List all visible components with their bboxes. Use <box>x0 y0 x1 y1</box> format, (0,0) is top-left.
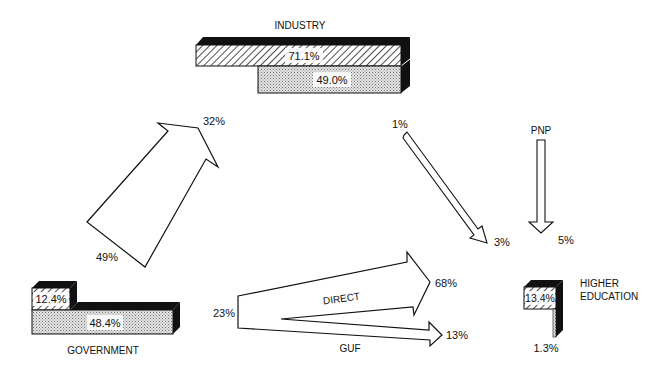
industry-bar-top-face <box>196 37 410 45</box>
industry-label: INDUSTRY <box>275 20 326 31</box>
industry-to-higher-ed-flow: 1% 3% <box>392 118 510 248</box>
industry-to-higher-ed-to-pct: 3% <box>494 236 510 248</box>
pnp-to-pct: 5% <box>558 234 574 246</box>
guf-pct: 13% <box>446 329 468 341</box>
government-label: GOVERNMENT <box>67 345 139 356</box>
gov-to-industry-from-pct: 49% <box>96 251 118 263</box>
gov-to-higher-ed-from-pct: 23% <box>213 307 235 319</box>
government-node: 12.4% 48.4% GOVERNMENT <box>32 281 180 356</box>
higher-education-node: 13.4% 1.3% HIGHER EDUCATION <box>524 278 638 354</box>
government-dotted-value: 48.4% <box>89 317 120 329</box>
higher-ed-label-line2: EDUCATION <box>580 291 638 302</box>
gov-to-industry-to-pct: 32% <box>203 115 225 127</box>
industry-dotted-value: 49.0% <box>316 74 347 86</box>
industry-hatched-value: 71.1% <box>288 50 319 62</box>
higher-ed-dotted-value: 1.3% <box>533 342 558 354</box>
funding-flow-diagram: INDUSTRY 71.1% 49.0% 12.4% 48.4% GOVERNM… <box>0 0 670 372</box>
guf-label: GUF <box>339 343 360 354</box>
pnp-arrow-icon <box>529 140 553 233</box>
government-hatched-value: 12.4% <box>35 293 66 305</box>
industry-to-higher-ed-arrow-icon <box>403 132 487 243</box>
industry-to-higher-ed-from-pct: 1% <box>392 118 408 130</box>
higher-ed-hatched-value: 13.4% <box>525 292 555 304</box>
higher-ed-dotted-bar <box>553 309 556 337</box>
gov-to-industry-arrow-icon <box>87 123 218 267</box>
industry-node: INDUSTRY 71.1% 49.0% <box>196 20 410 93</box>
pnp-label: PNP <box>531 125 552 136</box>
direct-pct: 68% <box>435 277 457 289</box>
higher-ed-label-line1: HIGHER <box>580 278 619 289</box>
gov-to-higher-ed-flow: 23% DIRECT 68% GUF 13% <box>213 252 468 354</box>
gov-to-industry-flow: 32% 49% <box>87 115 225 267</box>
pnp-flow: PNP 5% <box>529 125 574 246</box>
